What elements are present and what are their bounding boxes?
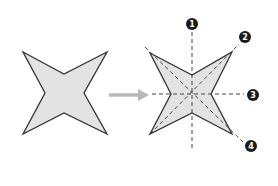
badge-1-label: 1	[189, 20, 195, 29]
left-star-shape	[23, 52, 107, 134]
badge-1: 1	[186, 18, 198, 30]
symmetry-diagram: 1 2 3 4	[0, 0, 278, 186]
badge-3-label: 3	[250, 91, 256, 100]
badge-2-label: 2	[242, 33, 248, 42]
badge-4: 4	[245, 140, 257, 152]
badge-2: 2	[239, 31, 251, 43]
badge-4-label: 4	[248, 142, 254, 151]
arrow-icon	[109, 89, 149, 101]
badge-3: 3	[247, 89, 259, 101]
